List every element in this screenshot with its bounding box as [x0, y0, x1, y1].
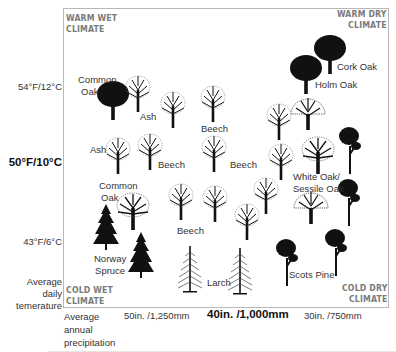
common-oak-label: Common Oak	[78, 74, 117, 98]
larch-label: Larch	[207, 277, 231, 289]
ash-label: Ash	[90, 144, 106, 156]
beech-tree-icon	[203, 186, 227, 222]
norway-spruce-tree-icon	[93, 204, 119, 250]
beech-label: Beech	[158, 159, 185, 171]
white-oak-sessile-oak-label: White Oak/ Sessile Oak	[293, 171, 344, 195]
beech-tree-icon	[269, 144, 293, 180]
white-oak-tree-icon	[294, 192, 328, 224]
holm-oak-label: Holm Oak	[315, 79, 357, 91]
beech-tree-icon	[267, 104, 291, 140]
beech-tree-icon	[161, 92, 185, 128]
beech-tree-icon	[254, 178, 278, 214]
beech-label: Beech	[201, 123, 228, 135]
ash-tree-icon	[126, 76, 150, 112]
norway-spruce-tree-icon	[128, 232, 154, 278]
beech-tree-icon	[202, 136, 226, 172]
beech-tree-icon	[201, 86, 225, 122]
white-oak-tree-icon	[302, 137, 334, 174]
scots-pine-tree-icon	[339, 127, 361, 174]
white-oak-tree-icon	[291, 98, 325, 130]
beech-tree-icon	[235, 204, 259, 240]
scots-pine-label: Scots Pine	[289, 269, 334, 281]
cork-oak-label: Cork Oak	[337, 61, 377, 73]
larch-tree-icon	[228, 248, 252, 295]
beech-label: Beech	[230, 159, 257, 171]
ash-label: Ash	[140, 111, 156, 123]
beech-label: Beech	[177, 225, 204, 237]
common-oak-label: Common Oak	[99, 180, 138, 204]
larch-tree-icon	[178, 246, 202, 293]
beech-tree-icon	[169, 184, 193, 220]
norway-spruce-label: Norway Spruce	[94, 253, 126, 277]
ash-tree-icon	[106, 138, 130, 174]
